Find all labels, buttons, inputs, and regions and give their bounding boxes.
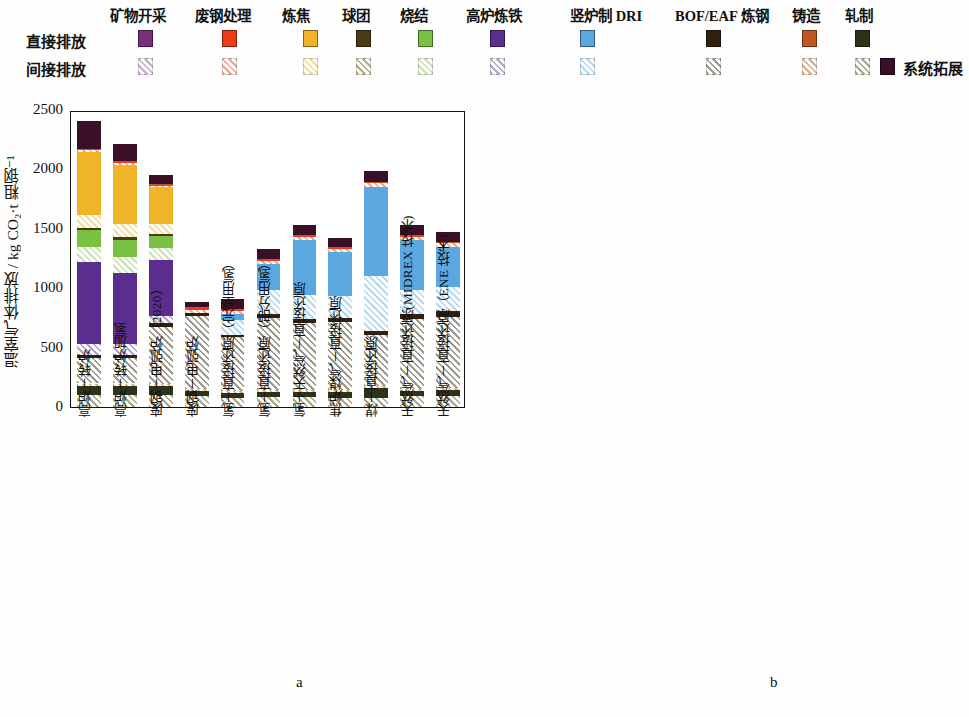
legend-swatch-direct-3	[303, 30, 318, 47]
bar-segment-scrap_ind	[293, 237, 317, 240]
legend-category-6: 高炉炼铁	[466, 4, 522, 25]
legend-category-3: 炼焦	[282, 4, 310, 25]
legend-category-9: 铸造	[792, 4, 820, 25]
bar-segment-steel_dir	[364, 331, 388, 335]
legend-category-7: 竖炉制 DRI	[570, 4, 642, 25]
bar-segment-casting_dir	[77, 149, 101, 150]
legend-swatch-direct-6	[490, 30, 505, 47]
bar-segment-sys_ext	[364, 171, 388, 182]
panel-letter-a: a	[296, 674, 303, 691]
bar-segment-dri_dir	[328, 252, 352, 296]
bar-segment-pellet_dir	[113, 237, 137, 239]
x-axis-label-a-5: 氢－直接还原（完全用氢）	[219, 256, 238, 417]
bar-segment-sinter_dir	[149, 236, 173, 248]
bar-segment-scrap_dir	[293, 235, 317, 236]
bar-segment-scrap_dir	[149, 185, 173, 186]
bar-segment-scrap_ind	[328, 249, 352, 252]
legend-category-8: BOF/EAF 炼钢	[675, 4, 769, 25]
bar-segment-casting_dir	[149, 184, 173, 185]
y-tick-label-a-0: 0	[5, 398, 63, 415]
legend-swatch-indirect-4	[356, 58, 371, 75]
bar-segment-scrap_dir	[113, 162, 137, 163]
bar-segment-scrap_ind	[77, 150, 101, 152]
bar-segment-coking_ind	[113, 224, 137, 237]
legend-swatch-indirect-7	[580, 58, 595, 75]
x-axis-label-a-4: 废钢－电弧炉	[183, 337, 202, 417]
y-tick-label-a-4: 2000	[5, 160, 63, 177]
bar-segment-dri_dir	[364, 187, 388, 276]
x-axis-label-a-2: 高炉－转炉加氢	[111, 323, 130, 417]
bar-segment-coking_ind	[77, 215, 101, 227]
bar-segment-scrap_dir	[364, 182, 388, 183]
legend-category-2: 废钢处理	[195, 4, 251, 25]
bar-segment-scrap_dir	[185, 308, 209, 310]
bar-segment-sys_ext	[185, 302, 209, 307]
bar-segment-coking_ind	[149, 224, 173, 234]
legend-swatch-direct-2	[222, 30, 237, 47]
chart-legend: 直接排放 间接排放 矿物开采废钢处理炼焦球团烧结高炉炼铁竖炉制 DRIBOF/E…	[0, 0, 969, 96]
x-axis-label-a-7: 氢＋天然气－直接还原	[290, 283, 309, 417]
bar-segment-scrap_ind	[364, 183, 388, 186]
bar-segment-scrap_dir	[328, 247, 352, 248]
bar-segment-sinter_ind	[113, 257, 137, 273]
bar-segment-steel_dir	[185, 313, 209, 315]
legend-swatch-system-extension	[880, 58, 895, 75]
legend-swatch-indirect-8	[706, 58, 721, 75]
legend-category-4: 球团	[342, 4, 370, 25]
bar-segment-pellet_dir	[77, 228, 101, 230]
bar-segment-scrap_ind	[185, 310, 209, 313]
bar-segment-sys_ext	[77, 121, 101, 149]
bar-segment-casting_dir	[113, 161, 137, 162]
x-axis-label-a-10: 天然气－直接还原(MIDREX 技术)	[398, 215, 417, 417]
legend-row-label-indirect: 间接排放	[26, 58, 86, 79]
legend-swatch-indirect-6	[490, 58, 505, 75]
bar-segment-sinter_ind	[149, 248, 173, 259]
legend-category-1: 矿物开采	[110, 4, 166, 25]
bar-segment-bf_dir	[77, 262, 101, 344]
bar-segment-coking_dir	[149, 187, 173, 224]
bar-segment-sys_ext	[328, 238, 352, 247]
bar-segment-sinter_dir	[77, 230, 101, 247]
bar-segment-sinter_ind	[77, 247, 101, 262]
bar-segment-pellet_dir	[149, 234, 173, 236]
x-axis-label-a-3: 废钢－电弧炉（2020）	[147, 282, 166, 417]
x-axis-label-a-9: 煤－直接还原	[362, 337, 381, 417]
legend-swatch-indirect-3	[303, 58, 318, 75]
x-axis-label-a-8: 焦炉煤气－直接还原	[326, 296, 345, 417]
bar-segment-casting_dir	[293, 235, 317, 236]
legend-category-5: 烧结	[400, 4, 428, 25]
bar-segment-scrap_ind	[113, 163, 137, 165]
x-axis-label-a-1: 高炉－转炉	[75, 350, 94, 417]
bar-segment-sys_ext	[149, 175, 173, 185]
legend-swatch-indirect-2	[222, 58, 237, 75]
legend-category-10: 轧制	[845, 4, 873, 25]
legend-row-label-direct: 直接排放	[26, 30, 86, 51]
legend-swatch-indirect-10	[855, 58, 870, 75]
bar-segment-sinter_dir	[113, 240, 137, 257]
bar-segment-scrap_dir	[77, 149, 101, 150]
bar-segment-sys_ext	[293, 225, 317, 235]
legend-swatch-direct-10	[855, 30, 870, 47]
bar-segment-dri_ind	[364, 276, 388, 332]
legend-label-system-extension: 系统拓展	[903, 57, 963, 78]
y-axis-title-a: 温室气体排放 / kg CO₂·t 粗钢⁻¹	[2, 115, 24, 408]
legend-swatch-indirect-1	[138, 58, 153, 75]
legend-swatch-direct-4	[356, 30, 371, 47]
bar-segment-coking_dir	[77, 152, 101, 215]
legend-swatch-direct-8	[706, 30, 721, 47]
bar-segment-casting_dir	[328, 247, 352, 248]
legend-swatch-direct-5	[418, 30, 433, 47]
x-axis-label-a-11: 天然气－直接还原（ENE 技术）	[434, 226, 453, 417]
y-tick-label-a-5: 2500	[5, 101, 63, 118]
panel-letter-b: b	[770, 674, 778, 691]
y-tick-label-a-3: 1500	[5, 220, 63, 237]
legend-swatch-direct-7	[580, 30, 595, 47]
y-tick-label-a-2: 1000	[5, 279, 63, 296]
legend-swatch-direct-9	[802, 30, 817, 47]
bar-segment-scrap_ind	[149, 186, 173, 188]
y-tick-label-a-1: 500	[5, 339, 63, 356]
legend-swatch-indirect-5	[418, 58, 433, 75]
x-axis-label-a-6: 氢－直接还原（部分用氢）	[255, 256, 274, 417]
bar-segment-casting_dir	[364, 182, 388, 183]
bar-segment-sys_ext	[113, 144, 137, 161]
